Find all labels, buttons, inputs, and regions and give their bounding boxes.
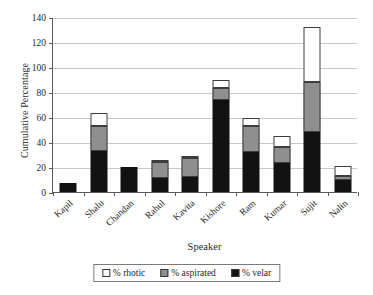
legend-item[interactable]: % velar [231, 268, 271, 278]
stacked-bar[interactable] [151, 160, 168, 193]
x-axis-tick-label: Ram [238, 198, 258, 217]
bar-segment-aspirated[interactable] [151, 162, 168, 178]
bar-group: Kapil [53, 18, 84, 192]
x-axis-tick [267, 192, 268, 196]
bar-segment-aspirated[interactable] [273, 147, 290, 163]
x-axis-tick-label: Kumar [262, 198, 288, 223]
bar-group: Kavita [175, 18, 206, 192]
x-axis-tick [53, 192, 54, 196]
legend-label: % velar [242, 268, 271, 278]
bar-segment-aspirated[interactable] [90, 126, 107, 151]
x-axis-tick-label: Kapil [53, 198, 75, 220]
bar-segment-aspirated[interactable] [182, 158, 199, 177]
bar-segment-rhotic[interactable] [334, 166, 351, 176]
x-axis-tick [145, 192, 146, 196]
bar-segment-rhotic[interactable] [243, 118, 260, 126]
y-axis-tick-label: 100 [32, 63, 46, 73]
x-axis-tick [236, 192, 237, 196]
bar-segment-rhotic[interactable] [90, 113, 107, 126]
bar-segment-rhotic[interactable] [304, 27, 321, 82]
stacked-bar[interactable] [212, 80, 229, 193]
x-axis-title: Speaker [52, 241, 357, 252]
stacked-bar[interactable] [182, 156, 199, 192]
bar-segment-velar[interactable] [243, 152, 260, 192]
legend-item[interactable]: % aspirated [160, 268, 216, 278]
chart-container: Cumulative Percentage 020406080100120140… [0, 0, 373, 295]
stacked-bar[interactable] [304, 27, 321, 192]
bar-segment-velar[interactable] [212, 100, 229, 193]
stacked-bar[interactable] [334, 166, 351, 192]
legend-label: % aspirated [171, 268, 216, 278]
bar-segment-velar[interactable] [151, 178, 168, 192]
y-axis-tick-label: 140 [32, 13, 46, 23]
bar-segment-velar[interactable] [121, 167, 138, 192]
plot-area: 020406080100120140 KapilShaluChandanRahu… [52, 18, 357, 193]
y-axis-title: Cumulative Percentage [19, 31, 30, 191]
x-axis-tick-label: Rahul [143, 198, 167, 221]
x-axis-tick-label: Kavita [171, 198, 197, 222]
bar-group: Rahul [145, 18, 176, 192]
y-axis-tick-label: 120 [32, 38, 46, 48]
stacked-bar[interactable] [121, 167, 138, 192]
bar-group: Chandan [114, 18, 145, 192]
x-axis-tick-label: Kishore [198, 198, 227, 226]
bar-segment-aspirated[interactable] [304, 82, 321, 132]
bar-segment-velar[interactable] [334, 180, 351, 193]
bar-segment-rhotic[interactable] [212, 80, 229, 89]
stacked-bar[interactable] [60, 183, 77, 192]
legend-swatch-rhotic [102, 269, 110, 277]
stacked-bar[interactable] [90, 113, 107, 192]
y-axis-tick-label: 80 [37, 88, 47, 98]
x-axis-tick-label: Sujit [299, 198, 319, 217]
bar-group: Ram [236, 18, 267, 192]
x-axis-tick [358, 192, 359, 196]
bar-segment-velar[interactable] [60, 183, 77, 192]
bar-group: Shalu [84, 18, 115, 192]
bar-segment-velar[interactable] [182, 177, 199, 192]
stacked-bar[interactable] [273, 136, 290, 192]
x-axis-tick [297, 192, 298, 196]
x-axis-tick-label: Shalu [83, 198, 106, 220]
chart-legend: % rhotic% aspirated% velar [93, 264, 280, 282]
bar-segment-aspirated[interactable] [212, 88, 229, 99]
y-axis-tick-label: 60 [37, 113, 47, 123]
y-axis-tick-label: 20 [37, 163, 47, 173]
legend-swatch-aspirated [160, 269, 168, 277]
bar-group: Sujit [297, 18, 328, 192]
legend-swatch-velar [231, 269, 239, 277]
bar-group: Nalin [328, 18, 359, 192]
bar-series-layer: KapilShaluChandanRahulKavitaKishoreRamKu… [53, 18, 357, 192]
x-axis-tick [84, 192, 85, 196]
x-axis-tick [175, 192, 176, 196]
bar-segment-rhotic[interactable] [273, 136, 290, 147]
x-axis-tick-label: Chandan [104, 198, 136, 228]
x-axis-tick [114, 192, 115, 196]
bar-segment-velar[interactable] [90, 151, 107, 192]
bar-segment-velar[interactable] [273, 163, 290, 192]
x-axis-tick [328, 192, 329, 196]
legend-label: % rhotic [113, 268, 145, 278]
bar-group: Kumar [267, 18, 298, 192]
bar-segment-velar[interactable] [304, 132, 321, 192]
stacked-bar[interactable] [243, 118, 260, 192]
bar-segment-aspirated[interactable] [243, 126, 260, 152]
bar-group: Kishore [206, 18, 237, 192]
x-axis-tick-label: Nalin [327, 198, 349, 220]
legend-item[interactable]: % rhotic [102, 268, 145, 278]
y-axis-tick-label: 0 [41, 188, 46, 198]
x-axis-tick [206, 192, 207, 196]
y-axis-tick-label: 40 [37, 138, 47, 148]
